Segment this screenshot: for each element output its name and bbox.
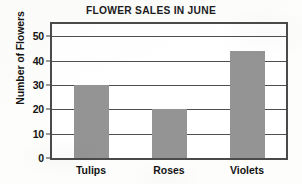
- bar-violets: [230, 51, 265, 158]
- y-tick-label: 30: [18, 79, 44, 91]
- x-tick-label-violets: Violets: [230, 164, 264, 176]
- x-tick-label-tulips: Tulips: [76, 164, 106, 176]
- y-tick-label: 20: [18, 103, 44, 115]
- gridline: [52, 36, 286, 37]
- bar-tulips: [74, 85, 109, 158]
- x-tick-label-roses: Roses: [153, 164, 184, 176]
- y-tick-label: 10: [18, 128, 44, 140]
- chart-screenshot: FLOWER SALES IN JUNE Number of Flowers 0…: [0, 0, 302, 184]
- y-tick-label: 50: [18, 30, 44, 42]
- plot-area: [50, 22, 288, 160]
- bar-roses: [152, 109, 187, 158]
- y-tick-label: 0: [18, 152, 44, 164]
- y-tick-label: 40: [18, 55, 44, 67]
- chart-title: FLOWER SALES IN JUNE: [11, 4, 292, 16]
